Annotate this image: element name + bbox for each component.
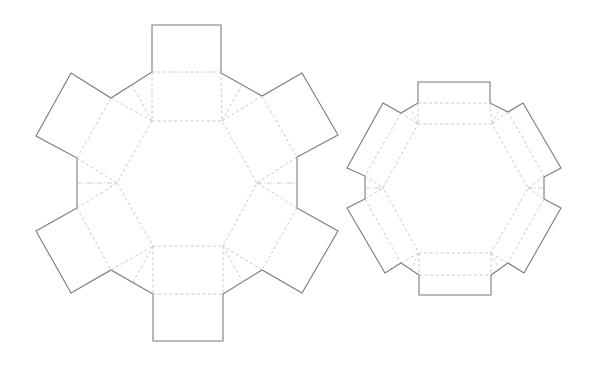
small-hexagon-template: [347, 82, 561, 295]
small-upper-right-panel: [492, 112, 544, 188]
small-upper-left-panel: [365, 113, 418, 188]
large-lower-right-panel: [223, 183, 297, 270]
small-hexagon-base: [383, 124, 528, 253]
large-hexagon-base: [117, 121, 257, 246]
large-hexagon-template: [36, 25, 338, 341]
dieline-canvas: [0, 0, 596, 367]
large-gusset-creases: [132, 85, 243, 282]
small-gusset-creases: [410, 108, 500, 269]
large-upper-right-panel: [222, 96, 297, 183]
